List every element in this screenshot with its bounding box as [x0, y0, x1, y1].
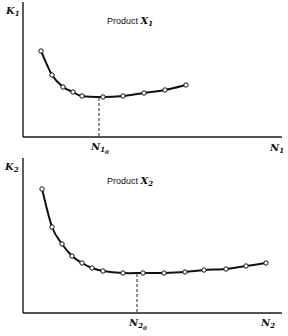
data-point	[163, 88, 167, 92]
data-point	[39, 49, 43, 53]
data-point	[244, 264, 248, 268]
minimum-label: N20	[128, 317, 147, 331]
data-point	[60, 242, 64, 246]
x-axis-label: N1	[269, 142, 284, 155]
data-point	[162, 271, 166, 275]
data-point	[183, 270, 187, 274]
data-point	[101, 95, 105, 99]
data-point	[70, 254, 74, 258]
x-axis-label: N2	[260, 317, 275, 330]
chart-product-x2: K2 N2 Product X2 N20	[4, 158, 282, 331]
y-axis-label: K2	[4, 161, 19, 174]
data-point	[224, 267, 228, 271]
data-point	[101, 269, 105, 273]
data-point	[184, 83, 188, 87]
data-point	[50, 73, 54, 77]
data-point	[80, 261, 84, 265]
data-point	[264, 261, 268, 265]
chart-title: Product X1	[107, 15, 153, 28]
minimum-label: N10	[90, 141, 109, 155]
chart-title: Product X2	[107, 175, 153, 188]
data-point	[90, 266, 94, 270]
data-point	[202, 268, 206, 272]
data-point	[40, 187, 44, 191]
chart-product-x1: K1 N1 Product X1 N10	[5, 2, 284, 155]
data-point	[142, 91, 146, 95]
data-point	[61, 85, 65, 89]
data-points	[39, 49, 188, 99]
data-point	[50, 225, 54, 229]
data-point	[121, 271, 125, 275]
y-axis-label: K1	[5, 5, 20, 18]
data-point	[80, 94, 84, 98]
cost-curve	[42, 189, 266, 273]
data-point	[141, 271, 145, 275]
figure: K1 N1 Product X1 N10 K2 N2 Product X2 N2…	[0, 0, 288, 336]
data-point	[121, 94, 125, 98]
data-points	[40, 187, 268, 275]
data-point	[71, 90, 75, 94]
